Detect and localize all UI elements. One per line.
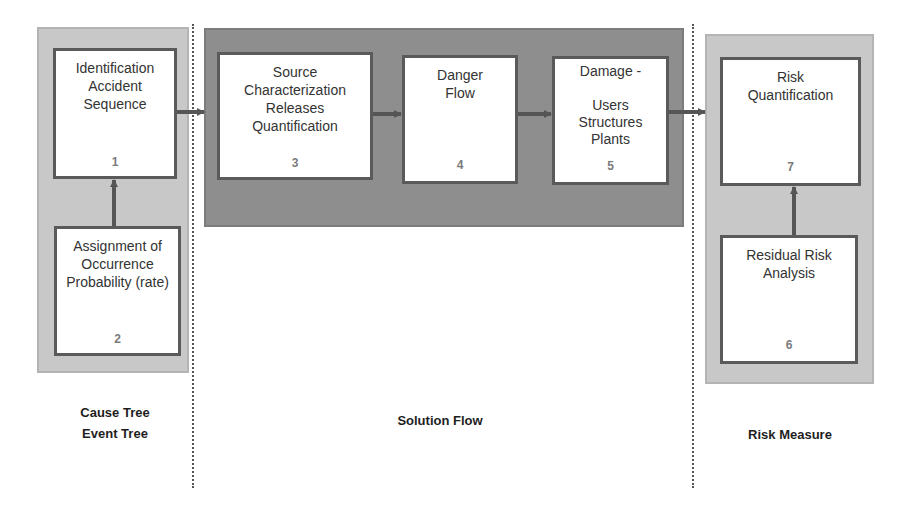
box-source-characterization: Source Characterization Releases Quantif…: [217, 52, 373, 180]
caption-cause-event-tree: Cause Tree Event Tree: [55, 402, 175, 444]
box-label: Damage - Users Structures Plants: [555, 63, 666, 148]
box-number: 6: [723, 338, 855, 352]
box-label: Source Characterization Releases Quantif…: [220, 63, 370, 135]
box-number: 4: [405, 158, 515, 172]
box-label: Assignment of Occurrence Probability (ra…: [57, 237, 178, 291]
box-assignment-occurrence-probability: Assignment of Occurrence Probability (ra…: [54, 226, 181, 356]
box-danger-flow: Danger Flow 4: [402, 55, 518, 184]
caption-risk-measure: Risk Measure: [730, 424, 850, 445]
box-label: Danger Flow: [405, 66, 515, 102]
caption-solution-flow: Solution Flow: [370, 410, 510, 431]
box-damage: Damage - Users Structures Plants 5: [552, 56, 669, 185]
box-label: Identification Accident Sequence: [56, 59, 174, 113]
box-identification-accident-sequence: Identification Accident Sequence 1: [53, 48, 177, 179]
box-number: 5: [555, 159, 666, 173]
box-number: 1: [56, 155, 174, 169]
box-label: Residual Risk Analysis: [723, 246, 855, 282]
box-risk-quantification: Risk Quantification 7: [720, 57, 861, 186]
box-number: 2: [57, 332, 178, 346]
box-number: 3: [220, 156, 370, 170]
box-residual-risk-analysis: Residual Risk Analysis 6: [720, 235, 858, 364]
box-label: Risk Quantification: [723, 68, 858, 104]
box-number: 7: [723, 160, 858, 174]
